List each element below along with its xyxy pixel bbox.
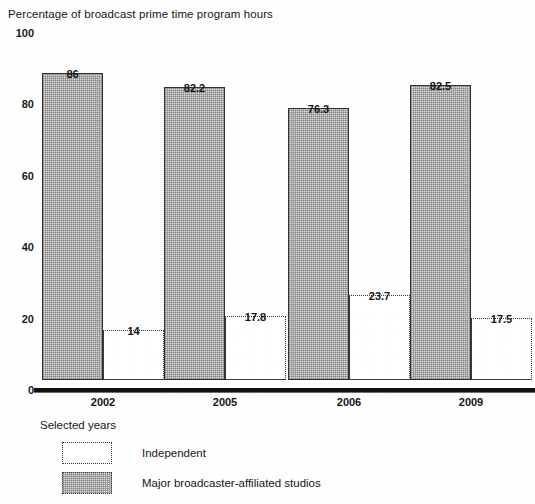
plot-area: 020406080100 8614200282.217.8200576.323.… — [0, 0, 535, 400]
bar-value-label: 14 — [127, 325, 139, 337]
bar — [225, 316, 286, 380]
bar — [349, 295, 410, 380]
y-axis-tick: 80 — [6, 98, 34, 110]
legend-swatch — [62, 442, 112, 464]
legend-swatch — [62, 472, 112, 494]
bar-value-label: 17.5 — [491, 313, 512, 325]
y-axis-tick: 0 — [6, 384, 34, 396]
x-axis-tick: 2005 — [213, 396, 237, 408]
x-axis-tick: 2006 — [337, 396, 361, 408]
bar — [103, 330, 164, 380]
bar-value-label: 86 — [66, 68, 78, 80]
bar-value-label: 17.8 — [245, 311, 266, 323]
bar-value-label: 23.7 — [369, 290, 390, 302]
y-axis-tick: 60 — [6, 170, 34, 182]
y-axis: 020406080100 — [0, 0, 34, 400]
y-axis-tick: 20 — [6, 313, 34, 325]
legend-label: Independent — [142, 447, 206, 459]
x-axis-tick: 2002 — [91, 396, 115, 408]
x-axis-label: Selected years — [40, 419, 116, 431]
x-axis-tick: 2009 — [459, 396, 483, 408]
bar — [471, 318, 532, 380]
bar-value-label: 82.5 — [430, 80, 451, 92]
bar — [42, 73, 103, 380]
legend-label: Major broadcaster-affiliated studios — [142, 477, 321, 489]
bar — [288, 108, 349, 380]
y-axis-tick: 100 — [6, 27, 34, 39]
legend-item: Major broadcaster-affiliated studios — [62, 470, 321, 496]
bar — [164, 87, 225, 380]
y-axis-tick: 40 — [6, 241, 34, 253]
x-axis-baseline-shadow — [34, 392, 535, 393]
bar-group-container — [38, 0, 535, 390]
bar — [410, 85, 471, 380]
bar-value-label: 82.2 — [184, 82, 205, 94]
chart-page: Percentage of broadcast prime time progr… — [0, 0, 535, 504]
legend-item: Independent — [62, 440, 206, 466]
bar-value-label: 76.3 — [308, 103, 329, 115]
